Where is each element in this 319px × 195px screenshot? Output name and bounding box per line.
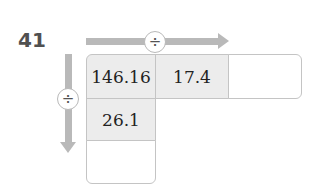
right-arrow-icon (218, 33, 229, 49)
problem-number: 41 (18, 28, 46, 52)
divide-icon-vertical: ÷ (57, 88, 79, 110)
down-arrow-icon (60, 142, 76, 153)
answer-cell-vertical[interactable] (86, 140, 156, 184)
answer-cell-horizontal[interactable] (228, 54, 302, 99)
cell-dividend: 146.16 (86, 54, 156, 99)
cell-divisor-vertical: 26.1 (86, 98, 156, 141)
cell-divisor-horizontal: 17.4 (155, 54, 229, 99)
divide-icon-horizontal: ÷ (144, 31, 166, 53)
